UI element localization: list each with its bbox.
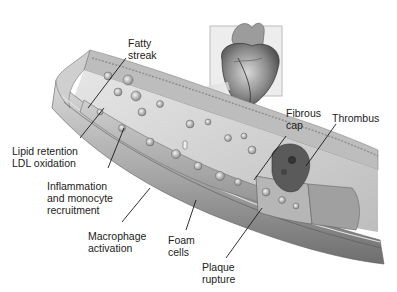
- label-foam-cells: Foam cells: [168, 234, 195, 258]
- label-thrombus: Thrombus: [332, 112, 379, 124]
- label-lipid-retention: Lipid retention LDL oxidation: [12, 145, 78, 169]
- label-fibrous-cap: Fibrous cap: [286, 107, 321, 131]
- label-macrophage-activation: Macrophage activation: [88, 230, 146, 254]
- label-inflammation: Inflammation and monocyte recruitment: [47, 180, 113, 216]
- label-plaque-rupture: Plaque rupture: [202, 261, 235, 285]
- label-fatty-streak: Fatty streak: [128, 37, 157, 61]
- atherosclerosis-diagram: Fatty streak Lipid retention LDL oxidati…: [0, 0, 397, 292]
